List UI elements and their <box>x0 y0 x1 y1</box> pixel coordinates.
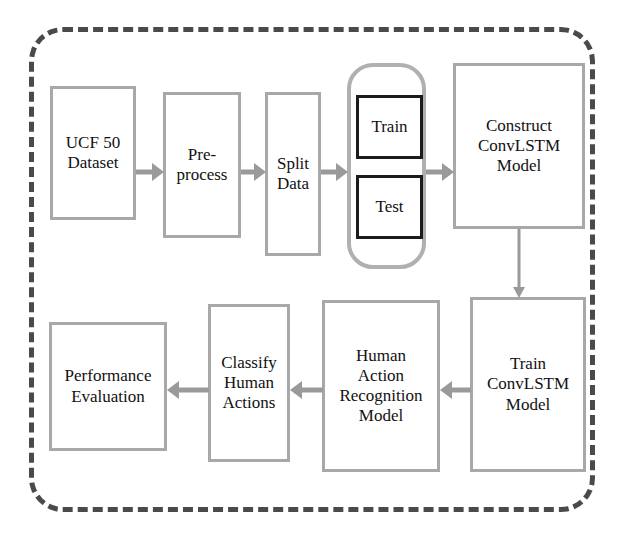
node-human-action-recognition-model[interactable]: Human Action Recognition Model <box>322 300 440 472</box>
arrow-har-model-to-classify <box>290 381 323 399</box>
arrow-construct-to-train-model <box>512 229 526 298</box>
node-ucf50-dataset[interactable]: UCF 50 Dataset <box>50 86 136 220</box>
arrow-classify-to-performance <box>167 381 209 399</box>
arrow-train-model-to-har-model <box>440 381 471 399</box>
node-preprocess[interactable]: Pre- process <box>163 92 241 238</box>
node-classify-human-actions[interactable]: Classify Human Actions <box>208 304 290 462</box>
node-construct-convlstm-model[interactable]: Construct ConvLSTM Model <box>453 63 585 229</box>
arrow-preprocess-to-split <box>241 163 266 181</box>
node-performance-evaluation[interactable]: Performance Evaluation <box>49 322 167 451</box>
node-train-convlstm-model[interactable]: Train ConvLSTM Model <box>470 297 586 472</box>
arrow-split-to-subsets <box>321 163 348 181</box>
node-split-data[interactable]: Split Data <box>265 92 321 256</box>
split-subsets-group: Train Test <box>347 63 426 269</box>
node-test-subset[interactable]: Test <box>356 175 423 239</box>
arrow-subsets-to-construct <box>426 163 454 181</box>
arrow-dataset-to-preprocess <box>136 163 164 181</box>
flowchart-canvas: UCF 50 Dataset Pre- process Split Data T… <box>0 0 623 538</box>
node-train-subset[interactable]: Train <box>356 95 423 159</box>
